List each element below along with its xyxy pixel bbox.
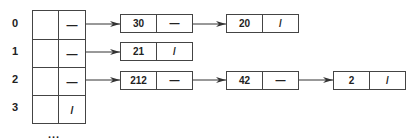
bucket-row-0: — (33, 11, 85, 39)
bucket-index-2: 2 (8, 73, 22, 85)
node-value: 42 (227, 72, 263, 89)
hash-table: — — — / (32, 10, 86, 124)
bucket-key-cell (33, 68, 59, 95)
node-value: 21 (121, 43, 157, 60)
list-node: 20 / (226, 14, 299, 33)
bucket-key-cell (33, 11, 59, 39)
node-next: — (263, 72, 298, 89)
bucket-index-3: 3 (8, 101, 22, 113)
bucket-row-3: / (33, 95, 85, 123)
bucket-index-0: 0 (8, 17, 22, 29)
bucket-pointer-cell: — (59, 68, 85, 95)
node-value: 30 (121, 15, 157, 32)
list-node: 2 / (333, 71, 406, 90)
bucket-key-cell (33, 96, 59, 123)
node-value: 20 (227, 15, 263, 32)
bucket-row-2: — (33, 67, 85, 95)
ellipsis: ... (48, 128, 60, 140)
node-next: / (157, 43, 192, 60)
list-node: 21 / (120, 42, 193, 61)
node-next: — (157, 72, 192, 89)
bucket-index-1: 1 (8, 45, 22, 57)
bucket-key-cell (33, 40, 59, 67)
bucket-pointer-cell: — (59, 40, 85, 67)
node-value: 2 (334, 72, 370, 89)
node-next: — (157, 15, 192, 32)
list-node: 212 — (120, 71, 193, 90)
node-value: 212 (121, 72, 157, 89)
bucket-pointer-cell: — (59, 11, 85, 39)
list-node: 30 — (120, 14, 193, 33)
node-next: / (263, 15, 298, 32)
bucket-pointer-cell: / (59, 96, 85, 123)
bucket-row-1: — (33, 39, 85, 67)
node-next: / (370, 72, 405, 89)
list-node: 42 — (226, 71, 299, 90)
